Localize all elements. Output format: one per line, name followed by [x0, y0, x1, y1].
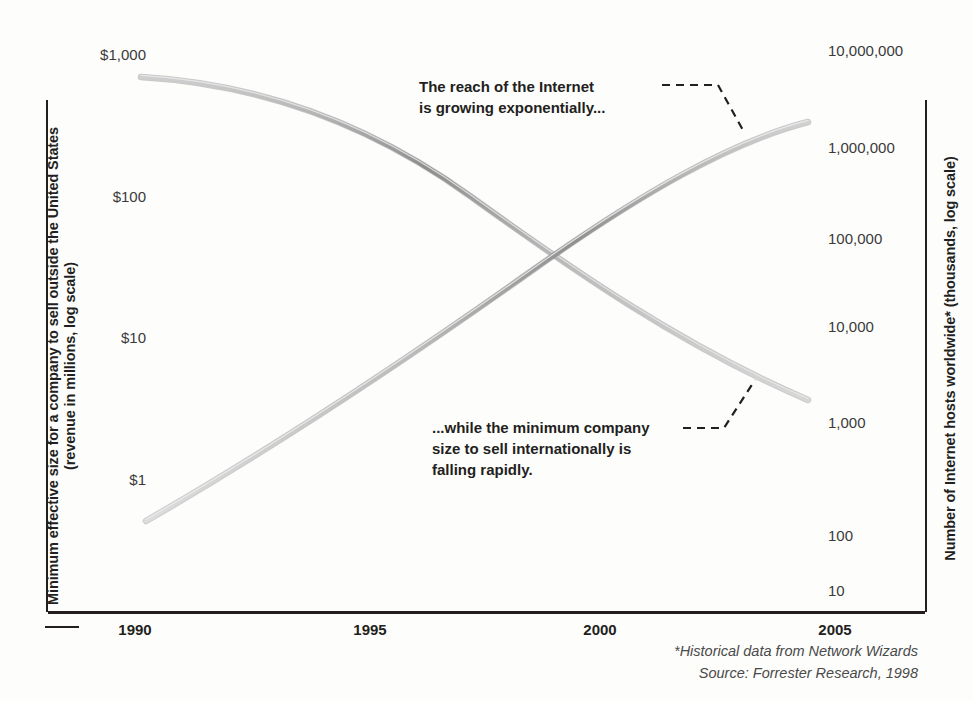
- left-axis-tick-labels: $1,000 $100 $10 $1: [76, 0, 146, 612]
- right-tick-10: 10: [828, 582, 845, 599]
- annotation-internet-reach: The reach of the Internet is growing exp…: [419, 76, 605, 118]
- right-tick-100: 100: [828, 527, 853, 544]
- footnote-historical-data: *Historical data from Network Wizards: [674, 643, 918, 659]
- footnote-source: Source: Forrester Research, 1998: [699, 665, 918, 681]
- left-tick-100: $100: [113, 188, 146, 205]
- right-tick-1000000: 1,000,000: [828, 139, 895, 156]
- chart-figure: Minimum effective size for a company to …: [0, 0, 973, 701]
- left-tick-10: $10: [121, 329, 146, 346]
- annotation-company-size: ...while the minimum company size to sel…: [432, 417, 650, 480]
- right-axis-title: Number of Internet hosts worldwide* (tho…: [942, 99, 959, 619]
- right-tick-10000: 10,000: [828, 318, 874, 335]
- series-company-size-curve: [141, 75, 808, 400]
- leader-line-top: [662, 85, 744, 132]
- x-axis-line: [48, 611, 925, 614]
- right-axis-tick-labels: 10,000,000 1,000,000 100,000 10,000 1,00…: [828, 0, 938, 612]
- left-axis-title: Minimum effective size for a company to …: [45, 106, 79, 628]
- right-tick-1000: 1,000: [828, 414, 866, 431]
- left-tick-1: $1: [129, 471, 146, 488]
- left-tick-1000: $1,000: [100, 46, 146, 63]
- x-tick-2005: 2005: [818, 621, 851, 638]
- left-axis-title-line1: Minimum effective size for a company to …: [45, 106, 62, 626]
- x-tick-2000: 2000: [583, 621, 616, 638]
- right-tick-10000000: 10,000,000: [828, 42, 903, 59]
- right-tick-100000: 100,000: [828, 230, 882, 247]
- leader-line-bottom: [683, 380, 755, 428]
- x-tick-1995: 1995: [353, 621, 386, 638]
- x-tick-1990: 1990: [118, 621, 151, 638]
